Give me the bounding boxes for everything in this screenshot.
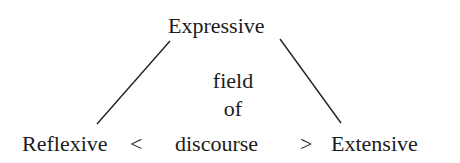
center-label-field: field	[173, 70, 293, 92]
left-label-reflexive: Reflexive	[22, 133, 108, 155]
greater-than-symbol: >	[300, 133, 312, 155]
center-label-of: of	[173, 98, 293, 120]
less-than-symbol: <	[130, 133, 142, 155]
left-connector-line	[97, 41, 170, 124]
top-label-expressive: Expressive	[168, 15, 265, 37]
discourse-triangle-diagram: Expressive field of Reflexive < discours…	[0, 0, 460, 163]
right-label-extensive: Extensive	[331, 133, 418, 155]
center-label-discourse: discourse	[175, 133, 258, 155]
